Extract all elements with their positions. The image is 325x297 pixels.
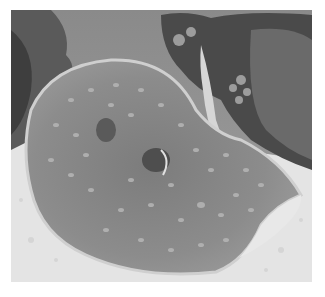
stingray-scene [11,10,312,282]
stingray-eye-left [96,118,116,142]
stingray-photo [11,10,312,282]
